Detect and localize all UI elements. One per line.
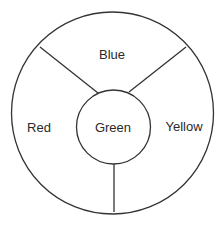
center-label-green: Green — [95, 120, 131, 135]
segment-label-red: Red — [27, 120, 51, 135]
segment-label-yellow: Yellow — [165, 119, 203, 134]
divider-upper-right — [129, 47, 186, 92]
color-wheel-diagram: Blue Red Yellow Green — [0, 0, 224, 225]
segment-label-blue: Blue — [99, 47, 125, 62]
divider-upper-left — [40, 47, 98, 93]
